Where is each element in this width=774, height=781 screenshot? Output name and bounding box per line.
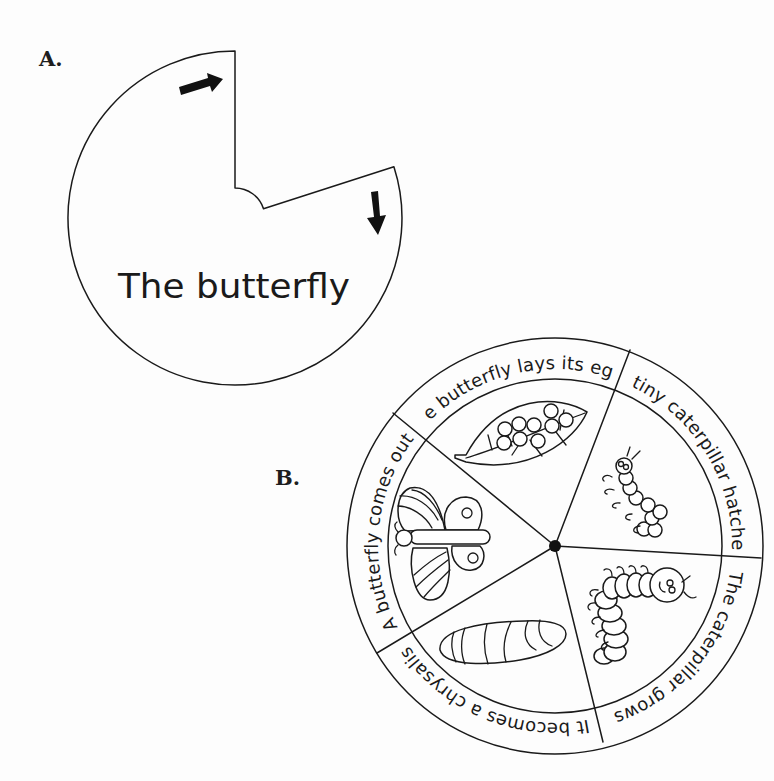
cover-wheel[interactable]: The butterfly (68, 51, 402, 385)
life-cycle-wheel[interactable]: The butterfly lays its eggs A tiny cater… (0, 0, 763, 754)
stage-label-4: It becomes a chrysalis (395, 643, 592, 740)
worksheet-canvas: A. B. The butterfly The butterfly lays i… (0, 0, 774, 781)
arrow-right-icon (179, 73, 223, 95)
part-b-label: B. (275, 465, 300, 490)
cover-wheel-outline (68, 51, 402, 385)
part-a-label: A. (38, 46, 63, 71)
leaf-with-eggs-icon (455, 402, 587, 465)
butterfly-icon (395, 488, 490, 600)
pivot-dot[interactable] (549, 540, 561, 552)
tiny-caterpillar-icon (603, 447, 667, 537)
big-caterpillar-icon (588, 566, 696, 664)
arrow-down-icon (367, 191, 386, 235)
cover-wheel-title: The butterfly (117, 267, 350, 306)
stage-label-2: A tiny caterpillar hatches (0, 0, 749, 550)
stage-label-1: The butterfly lays its eggs (0, 0, 616, 424)
chrysalis-icon (440, 620, 566, 664)
